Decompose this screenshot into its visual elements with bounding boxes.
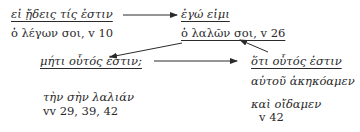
node-heading: εἰ ᾔδεις τίς ἐστιν bbox=[11, 7, 113, 21]
node-this-is-the-one: ὅτι οὗτός ἐστιν αὐτοῦ ἀκηκόαμεν καὶ οἴδα… bbox=[251, 54, 355, 124]
node-heading: ὅτι οὗτός ἐστιν bbox=[251, 54, 355, 68]
node-i-am: ἐγώ εἰμι ὁ λαλῶν σοι, v 26 bbox=[181, 7, 285, 40]
node-heading: μήτι οὗτός ἐστιν; bbox=[40, 54, 142, 68]
node-reference: ὁ λέγων σοι, v 10 bbox=[11, 26, 113, 40]
node-your-speech: τὴν σὴν λαλιάν vv 29, 39, 42 bbox=[43, 90, 134, 118]
node-if-you-knew: εἰ ᾔδεις τίς ἐστιν ὁ λέγων σοι, v 10 bbox=[11, 7, 113, 40]
node-heading: ἐγώ εἰμι bbox=[181, 7, 285, 21]
node-line: αὐτοῦ ἀκηκόαμεν bbox=[251, 74, 355, 88]
node-is-this-the-one: μήτι οὗτός ἐστιν; bbox=[40, 54, 142, 68]
node-reference: vv 29, 39, 42 bbox=[43, 104, 134, 118]
arrow-n4-to-n2 bbox=[240, 40, 268, 52]
node-reference: v 42 bbox=[259, 110, 355, 124]
node-reference: ὁ λαλῶν σοι, v 26 bbox=[181, 26, 285, 40]
node-line: καὶ οἴδαμεν bbox=[251, 97, 355, 111]
node-line: τὴν σὴν λαλιάν bbox=[43, 90, 134, 104]
